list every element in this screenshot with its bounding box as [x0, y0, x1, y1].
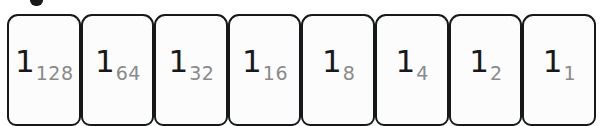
bit-label: 132 [169, 46, 214, 77]
bit-cell-128[interactable]: 1128 [7, 14, 81, 126]
bit-value: 1 [469, 43, 489, 79]
bit-value: 1 [169, 43, 189, 79]
bit-label: 12 [469, 46, 501, 77]
bit-cell-1[interactable]: 11 [522, 14, 596, 126]
bit-label: 14 [396, 46, 428, 77]
bit-value: 1 [242, 43, 262, 79]
bit-weight-subscript: 64 [116, 62, 141, 84]
bit-cell-row: 1128 164 132 116 18 14 [7, 14, 596, 126]
bit-value: 1 [15, 43, 35, 79]
bit-weight-subscript: 4 [416, 62, 429, 84]
bit-value: 1 [543, 43, 563, 79]
bit-cell-64[interactable]: 164 [81, 14, 155, 126]
bit-value: 1 [396, 43, 416, 79]
bit-weight-subscript: 128 [36, 62, 74, 84]
bit-label: 116 [242, 46, 287, 77]
bit-weight-subscript: 32 [189, 62, 214, 84]
bit-cell-32[interactable]: 132 [154, 14, 228, 126]
bit-value: 1 [95, 43, 115, 79]
bit-label: 1128 [15, 46, 73, 77]
bit-weight-subscript: 8 [343, 62, 356, 84]
bit-cell-4[interactable]: 14 [375, 14, 449, 126]
bit-cell-8[interactable]: 18 [301, 14, 375, 126]
bit-label: 164 [95, 46, 140, 77]
bit-weight-subscript: 1 [564, 62, 577, 84]
binary-place-value-figure: 1128 164 132 116 18 14 [0, 0, 602, 126]
bit-weight-subscript: 2 [490, 62, 503, 84]
bit-weight-subscript: 16 [263, 62, 288, 84]
bit-cell-2[interactable]: 12 [449, 14, 523, 126]
bit-cell-16[interactable]: 116 [228, 14, 302, 126]
clipped-glyph-fragment-icon [30, 0, 43, 6]
bit-label: 18 [322, 46, 354, 77]
bit-value: 1 [322, 43, 342, 79]
bit-label: 11 [543, 46, 575, 77]
